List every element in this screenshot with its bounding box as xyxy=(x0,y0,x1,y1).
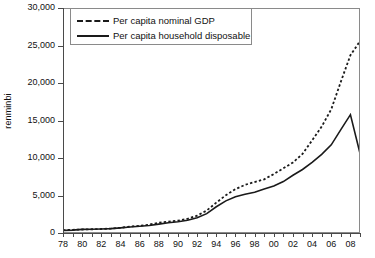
x-axis-tick xyxy=(293,233,294,237)
x-axis-tick-label: 04 xyxy=(302,239,322,249)
data-series-line xyxy=(64,115,359,231)
x-axis-tick xyxy=(283,233,284,237)
x-axis-tick-label: 00 xyxy=(264,239,284,249)
x-axis-tick-label: 90 xyxy=(168,239,188,249)
x-axis-tick-label: 06 xyxy=(321,239,341,249)
x-axis-tick-label: 02 xyxy=(283,239,303,249)
x-axis-tick xyxy=(274,233,275,237)
x-axis-tick xyxy=(207,233,208,237)
x-axis-tick xyxy=(303,233,304,237)
x-axis-tick xyxy=(312,233,313,237)
x-axis-tick xyxy=(101,233,102,237)
chart-figure: renminbi 05,00010,00015,00020,00025,0003… xyxy=(0,0,375,258)
x-axis-tick xyxy=(130,233,131,237)
x-axis-tick-label: 84 xyxy=(110,239,130,249)
x-axis-tick xyxy=(188,233,189,237)
x-axis-tick-label: 88 xyxy=(149,239,169,249)
x-axis-tick xyxy=(111,233,112,237)
legend-item: Per capita household disposable xyxy=(77,28,251,43)
y-axis-tick-label: 30,000 xyxy=(3,2,55,12)
x-axis-tick xyxy=(82,233,83,237)
chart-legend: Per capita nominal GDP Per capita househ… xyxy=(70,8,252,45)
x-axis-tick-label: 98 xyxy=(245,239,265,249)
x-axis-tick xyxy=(360,233,361,237)
y-axis-tick-label: 5,000 xyxy=(3,190,55,200)
x-axis-tick xyxy=(341,233,342,237)
x-axis-tick xyxy=(120,233,121,237)
x-axis-tick-label: 78 xyxy=(53,239,73,249)
x-axis-tick xyxy=(197,233,198,237)
x-axis-tick xyxy=(226,233,227,237)
x-axis-tick-label: 92 xyxy=(187,239,207,249)
x-axis-tick xyxy=(216,233,217,237)
x-axis-tick xyxy=(73,233,74,237)
x-axis-tick xyxy=(168,233,169,237)
x-axis-tick-label: 80 xyxy=(72,239,92,249)
x-axis-tick xyxy=(322,233,323,237)
x-axis-tick xyxy=(149,233,150,237)
y-axis-tick-label: 10,000 xyxy=(3,152,55,162)
legend-item-label: Per capita nominal GDP xyxy=(109,15,215,26)
x-axis-line xyxy=(63,233,361,234)
x-axis-tick xyxy=(63,233,64,237)
dashed-line-key-icon xyxy=(77,16,109,25)
x-axis-tick xyxy=(245,233,246,237)
x-axis-tick xyxy=(331,233,332,237)
x-axis-tick xyxy=(264,233,265,237)
x-axis-tick xyxy=(255,233,256,237)
data-series-line xyxy=(64,41,359,230)
legend-item: Per capita nominal GDP xyxy=(77,13,251,28)
legend-item-label: Per capita household disposable xyxy=(109,30,250,41)
x-axis-tick xyxy=(235,233,236,237)
x-axis-tick-label: 82 xyxy=(91,239,111,249)
x-axis-tick xyxy=(92,233,93,237)
solid-line-key-icon xyxy=(77,31,109,40)
y-axis-line xyxy=(63,8,64,234)
x-axis-tick xyxy=(350,233,351,237)
x-axis-tick xyxy=(140,233,141,237)
y-axis-tick-label: 15,000 xyxy=(3,115,55,125)
y-axis-tick-label: 0 xyxy=(3,227,55,237)
x-axis-tick-label: 86 xyxy=(130,239,150,249)
y-axis-tick-label: 25,000 xyxy=(3,40,55,50)
x-axis-tick-label: 94 xyxy=(206,239,226,249)
x-axis-tick-label: 08 xyxy=(340,239,360,249)
x-axis-tick xyxy=(159,233,160,237)
y-axis-labels: 05,00010,00015,00020,00025,00030,000 xyxy=(0,0,55,258)
x-axis-tick-label: 96 xyxy=(225,239,245,249)
x-axis-tick xyxy=(178,233,179,237)
y-axis-tick-label: 20,000 xyxy=(3,77,55,87)
